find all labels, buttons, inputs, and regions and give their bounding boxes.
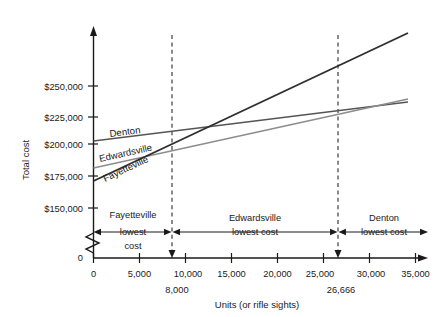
y-axis-zero-label: 0 bbox=[78, 253, 83, 263]
cost-comparison-chart: $250,000 $225,000 $200,000 $175,000 $150… bbox=[0, 0, 439, 317]
y-axis-arrow bbox=[90, 26, 97, 36]
x-tick-label-0: 0 bbox=[91, 269, 96, 279]
vertical-marker-label-26666: 26,666 bbox=[327, 285, 355, 295]
x-tick-label-35000: 35,000 bbox=[401, 269, 429, 279]
region-arrow-edwardsville-right-head bbox=[330, 229, 338, 235]
region-arrow-fayetteville-left-head bbox=[94, 229, 102, 235]
x-ticks-group: 0 5,000 10,000 15,000 20,000 25,000 30,0… bbox=[91, 253, 430, 279]
region-label-edwardsville-line1: Edwardsville bbox=[229, 213, 281, 223]
region-label-fayetteville-line2: lowest bbox=[120, 227, 147, 237]
x-tick-label-15000: 15,000 bbox=[217, 269, 245, 279]
x-tick-label-30000: 30,000 bbox=[357, 269, 385, 279]
y-axis-title: Total cost bbox=[20, 140, 31, 180]
series-labels-group: Denton Edwardsville Fayetteville bbox=[98, 124, 153, 184]
y-tick-label-175000: $175,000 bbox=[44, 172, 83, 182]
region-label-denton-line2: lowest cost bbox=[361, 227, 407, 237]
region-label-edwardsville-line2: lowest cost bbox=[232, 227, 278, 237]
y-tick-label-250000: $250,000 bbox=[44, 82, 83, 92]
marker-26666-pointer bbox=[335, 250, 342, 258]
series-label-denton: Denton bbox=[109, 124, 141, 139]
region-label-denton-line1: Denton bbox=[369, 213, 399, 223]
vertical-marker-label-8000: 8,000 bbox=[165, 285, 188, 295]
y-tick-label-150000: $150,000 bbox=[44, 204, 83, 214]
region-arrow-denton-right-head bbox=[420, 229, 428, 235]
x-tick-label-5000: 5,000 bbox=[128, 269, 151, 279]
region-arrow-denton-left-head bbox=[339, 229, 347, 235]
region-arrow-fayetteville-right-head bbox=[164, 229, 172, 235]
region-annotations-group: Fayetteville lowest cost Edwardsville lo… bbox=[94, 210, 429, 251]
chart-canvas: $250,000 $225,000 $200,000 $175,000 $150… bbox=[0, 0, 439, 317]
x-tick-label-20000: 20,000 bbox=[263, 269, 291, 279]
x-axis-arrow bbox=[418, 255, 428, 262]
x-tick-label-25000: 25,000 bbox=[306, 269, 334, 279]
region-arrow-edwardsville-left-head bbox=[173, 229, 181, 235]
x-axis-title: Units (or rifle sights) bbox=[215, 299, 299, 310]
x-tick-label-10000: 10,000 bbox=[174, 269, 202, 279]
marker-8000-pointer bbox=[169, 250, 176, 258]
vertical-markers-group: 8,000 26,666 bbox=[165, 35, 355, 295]
y-tick-label-225000: $225,000 bbox=[44, 113, 83, 123]
y-tick-label-200000: $200,000 bbox=[44, 140, 83, 150]
region-label-fayetteville-line1: Fayetteville bbox=[109, 210, 156, 220]
region-label-fayetteville-line3: cost bbox=[124, 241, 141, 251]
y-axis-break-icon bbox=[86, 233, 99, 253]
y-ticks-group: $250,000 $225,000 $200,000 $175,000 $150… bbox=[44, 82, 98, 264]
